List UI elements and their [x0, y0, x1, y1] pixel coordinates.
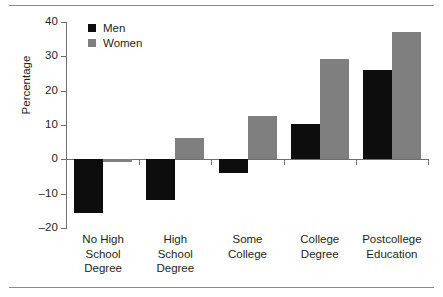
legend-label-men: Men	[103, 22, 125, 34]
y-tick-label: 20	[6, 85, 58, 97]
bar-women-1	[175, 138, 204, 159]
legend-swatch-men-icon	[88, 24, 96, 32]
x-category-label: PostcollegeEducation	[349, 232, 435, 261]
legend: Men Women	[88, 20, 208, 50]
bottom-divider-rule	[9, 287, 434, 288]
legend-swatch-women-icon	[88, 39, 96, 47]
y-tick-label: 0	[6, 153, 58, 165]
y-tick-label: 30	[6, 50, 58, 62]
bar-men-1	[146, 159, 175, 200]
x-axis-category-labels: No HighSchoolDegreeHighSchoolDegreeSomeC…	[67, 232, 428, 284]
bar-women-0	[103, 159, 132, 162]
y-tick-label: –20	[6, 222, 58, 234]
y-tick-label: 40	[6, 16, 58, 28]
bar-women-3	[320, 59, 349, 159]
bar-women-4	[392, 32, 421, 159]
y-tick-label: –10	[6, 188, 58, 200]
x-category-label-line: Postcollege	[349, 232, 435, 247]
plot-area	[67, 22, 428, 228]
bar-men-2	[219, 159, 248, 173]
legend-label-women: Women	[103, 37, 142, 49]
top-divider-rule	[9, 5, 434, 6]
bar-men-0	[74, 159, 103, 213]
legend-item-women: Women	[88, 35, 208, 50]
legend-item-men: Men	[88, 20, 208, 35]
x-category-label-line: Degree	[132, 261, 218, 276]
y-tick-label: 10	[6, 119, 58, 131]
x-tick-mark	[428, 160, 429, 165]
y-tick-mark	[61, 228, 67, 229]
x-category-label-line: Education	[349, 247, 435, 262]
bar-women-2	[248, 116, 277, 159]
bar-men-4	[363, 70, 392, 159]
figure: Percentage 403020100–10–20 Men Women No …	[0, 0, 443, 297]
bar-men-3	[291, 124, 320, 159]
